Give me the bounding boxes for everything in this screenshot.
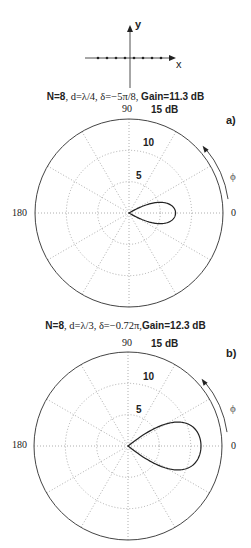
- phi-arc: [205, 382, 227, 432]
- polar-plot-b: [34, 352, 227, 540]
- plot-a-angle-90: 90: [122, 103, 132, 114]
- plot-a-scale-max: 15 dB: [151, 104, 178, 115]
- diagram-canvas: [0, 0, 251, 548]
- plot-a-title-n: N=8: [47, 91, 66, 102]
- inset-y-label: y: [135, 18, 141, 30]
- polar-plot-a: [35, 119, 228, 307]
- array-element-dot: [160, 57, 163, 60]
- array-element-dot: [106, 57, 109, 60]
- plot-b-angle-90: 90: [122, 337, 132, 348]
- phi-arc: [206, 149, 228, 199]
- array-element-dot: [97, 57, 100, 60]
- plot-b-ring-10: 10: [143, 371, 154, 382]
- plot-a-title-params: , d=λ/4, δ=−5π/8,: [65, 91, 141, 102]
- plot-a-ring-10: 10: [143, 137, 154, 148]
- array-element-dot: [124, 57, 127, 60]
- array-geometry-inset: [85, 25, 176, 88]
- plot-a-panel-label: a): [226, 114, 236, 126]
- plot-b-angle-180: 180: [12, 439, 27, 450]
- inset-x-label: x: [176, 58, 182, 70]
- array-element-dot: [151, 57, 154, 60]
- plot-a-title: N=8, d=λ/4, δ=−5π/8, Gain=11.3 dB: [0, 91, 251, 102]
- grid-spoke: [47, 446, 128, 493]
- grid-spoke: [129, 213, 210, 260]
- grid-spoke: [128, 446, 175, 527]
- array-element-dot: [133, 57, 136, 60]
- plot-b-title-n: N=8: [45, 320, 64, 331]
- plot-b-scale-max: 15 dB: [151, 338, 178, 349]
- x-arrow-icon: [169, 55, 176, 61]
- grid-spoke: [82, 213, 129, 294]
- grid-spoke: [47, 399, 128, 446]
- plot-b-title: N=8, d=λ/3, δ=−0.72π,Gain=12.3 dB: [0, 320, 251, 331]
- grid-spoke: [82, 132, 129, 213]
- plot-b-panel-label: b): [226, 347, 236, 359]
- array-element-dot: [115, 57, 118, 60]
- grid-spoke: [81, 365, 128, 446]
- plot-a-angle-180: 180: [12, 207, 27, 218]
- plot-a-ring-5: 5: [136, 170, 142, 181]
- grid-spoke: [129, 213, 176, 294]
- grid-spoke: [81, 446, 128, 527]
- array-element-dot: [142, 57, 145, 60]
- plot-b-phi-label: ϕ: [230, 402, 236, 414]
- grid-spoke: [48, 166, 129, 213]
- plot-b-title-params: , d=λ/3, δ=−0.72π,: [64, 320, 142, 331]
- plot-b-ring-5: 5: [136, 404, 142, 415]
- plot-a-phi-label: ϕ: [230, 170, 236, 182]
- y-arrow-icon: [127, 25, 133, 32]
- grid-spoke: [128, 446, 209, 493]
- plot-b-title-gain: Gain=12.3 dB: [142, 320, 206, 331]
- plot-b-angle-0: 0: [231, 440, 236, 451]
- plot-a-title-gain: Gain=11.3 dB: [141, 91, 204, 102]
- plot-a-angle-0: 0: [231, 207, 236, 218]
- grid-spoke: [48, 213, 129, 260]
